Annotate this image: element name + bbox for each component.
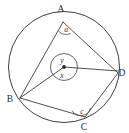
vertex-label-b: B [7, 94, 13, 104]
vertex-label-a: A [58, 4, 65, 14]
angle-label-c: c [80, 107, 84, 116]
angle-label-a: a [64, 25, 68, 34]
radius-centre-b [20, 67, 64, 98]
vertex-label-d: D [119, 68, 126, 78]
vertex-label-c: C [81, 122, 87, 132]
chord-ad [63, 22, 118, 73]
chord-ab [20, 22, 63, 98]
angle-label-y: y [59, 56, 64, 65]
angle-label-x: x [59, 71, 64, 80]
centre-point-dot [62, 65, 66, 69]
geometry-figure: A B C D a c y x [0, 0, 129, 133]
radius-centre-d [64, 67, 118, 71]
geometry-canvas: A B C D a c y x [0, 0, 129, 133]
